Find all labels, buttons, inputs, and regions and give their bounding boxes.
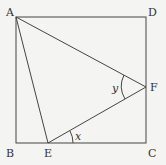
label-d: D [148,6,157,19]
segment-ef [48,87,146,143]
angle-label-x: x [75,130,82,143]
label-e: E [44,147,52,160]
label-b: B [6,147,14,160]
segment-ae [16,17,48,143]
segment-af [16,17,146,87]
angle-arc-x [70,131,73,143]
label-f: F [150,81,158,94]
label-c: C [148,147,156,160]
angle-arc-y [121,75,125,99]
angle-label-y: y [111,82,119,95]
geometry-diagram: A D B E C F y x [0,0,166,165]
label-a: A [5,6,15,19]
